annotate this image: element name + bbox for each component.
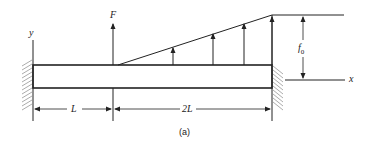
distributed-load-envelope xyxy=(118,15,272,65)
beam xyxy=(33,65,272,88)
x-axis-label: x xyxy=(349,74,353,84)
figure-caption: (a) xyxy=(179,128,190,137)
f0-label: f0 xyxy=(298,43,304,56)
f0-label-sub: 0 xyxy=(301,48,305,56)
span-left-label: L xyxy=(71,104,77,114)
right-wall-support xyxy=(273,66,283,110)
force-label: F xyxy=(110,10,116,20)
span-right-label: 2L xyxy=(182,104,193,114)
left-wall-support xyxy=(22,60,32,110)
y-axis-label: y xyxy=(29,28,33,38)
